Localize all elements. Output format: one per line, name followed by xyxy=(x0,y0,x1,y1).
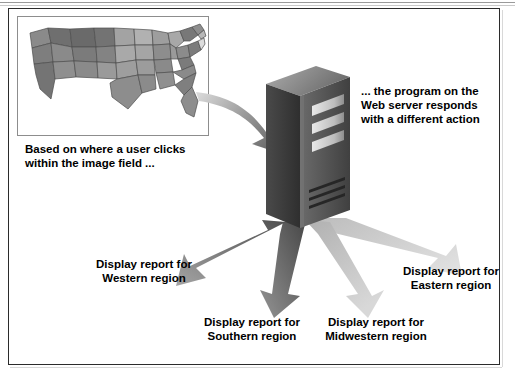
frame-shadow-bottom xyxy=(10,367,502,368)
state-wi xyxy=(152,30,170,45)
page-edge-line-secondary xyxy=(0,5,515,6)
caption-western-region: Display report for Western region xyxy=(88,257,200,285)
state-tx-w xyxy=(97,62,117,79)
state-tx xyxy=(110,75,142,109)
state-wy xyxy=(94,28,115,47)
caption-image-map: Based on where a user clicks within the … xyxy=(25,142,185,170)
state-ut xyxy=(72,47,97,62)
state-il xyxy=(153,44,171,60)
state-az xyxy=(53,61,76,79)
figure-container: Based on where a user clicks within the … xyxy=(0,0,515,379)
state-ia xyxy=(135,45,154,60)
state-nm xyxy=(74,61,98,78)
state-co xyxy=(96,46,116,63)
state-oh xyxy=(176,45,190,59)
state-mn xyxy=(134,29,153,45)
state-mt xyxy=(70,28,96,47)
frame-shadow-right xyxy=(502,10,503,367)
caption-eastern-region: Display report for Eastern region xyxy=(398,264,504,292)
state-nd xyxy=(114,28,135,46)
caption-midwestern-region: Display report for Midwestern region xyxy=(318,315,434,343)
us-image-map-panel[interactable] xyxy=(17,16,209,136)
us-map-svg xyxy=(18,17,208,135)
caption-web-server: ... the program on the Web server respon… xyxy=(361,84,480,126)
state-ca xyxy=(34,62,55,99)
page-edge-line xyxy=(0,2,515,3)
state-ms-al xyxy=(156,72,175,89)
caption-southern-region: Display report for Southern region xyxy=(196,315,308,343)
state-tn-ky xyxy=(154,59,173,73)
state-mo xyxy=(136,60,155,75)
